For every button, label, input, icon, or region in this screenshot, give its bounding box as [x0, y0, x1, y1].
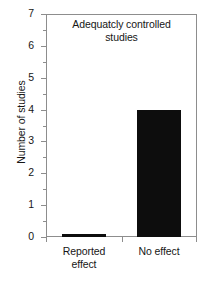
- y-tick-mark-7: [41, 14, 46, 15]
- y-tick-mark-5: [41, 78, 46, 79]
- y-tick-label-0: 0: [28, 230, 34, 243]
- chart-title: Adequatcly controlled studies: [46, 18, 197, 43]
- bar-no-effect: [137, 110, 181, 237]
- y-minor-tick-mark: [43, 126, 46, 127]
- chart-title-line-1: Adequatcly controlled: [46, 18, 197, 31]
- x-category-line-1: No effect: [121, 245, 197, 258]
- bar-chart-figure: Adequatcly controlled studies Number of …: [0, 0, 216, 282]
- x-category-label-reported-effect: Reported effect: [46, 245, 122, 270]
- y-tick-label-5: 5: [28, 71, 34, 84]
- y-tick-label-7: 7: [28, 7, 34, 20]
- x-tick-mark-middle: [122, 237, 123, 242]
- y-tick-mark-6: [41, 46, 46, 47]
- y-tick-label-1: 1: [28, 198, 34, 211]
- y-minor-tick-mark: [43, 62, 46, 63]
- y-minor-tick-mark: [43, 189, 46, 190]
- x-category-line-2: effect: [46, 258, 122, 271]
- x-tick-mark-left: [46, 237, 47, 242]
- y-minor-tick-mark: [43, 94, 46, 95]
- y-tick-mark-1: [41, 205, 46, 206]
- y-minor-tick-mark: [43, 221, 46, 222]
- y-tick-mark-3: [41, 141, 46, 142]
- bar-reported-effect: [62, 234, 106, 237]
- y-axis-label: Number of studies: [15, 47, 27, 197]
- y-tick-mark-2: [41, 173, 46, 174]
- chart-title-line-2: studies: [46, 31, 197, 44]
- y-tick-label-3: 3: [28, 134, 34, 147]
- x-category-line-1: Reported: [46, 245, 122, 258]
- y-tick-label-4: 4: [28, 103, 34, 116]
- y-tick-label-2: 2: [28, 166, 34, 179]
- y-tick-label-6: 6: [28, 39, 34, 52]
- x-tick-mark-right: [196, 237, 197, 242]
- y-tick-mark-4: [41, 110, 46, 111]
- y-minor-tick-mark: [43, 30, 46, 31]
- x-category-label-no-effect: No effect: [121, 245, 197, 258]
- y-minor-tick-mark: [43, 157, 46, 158]
